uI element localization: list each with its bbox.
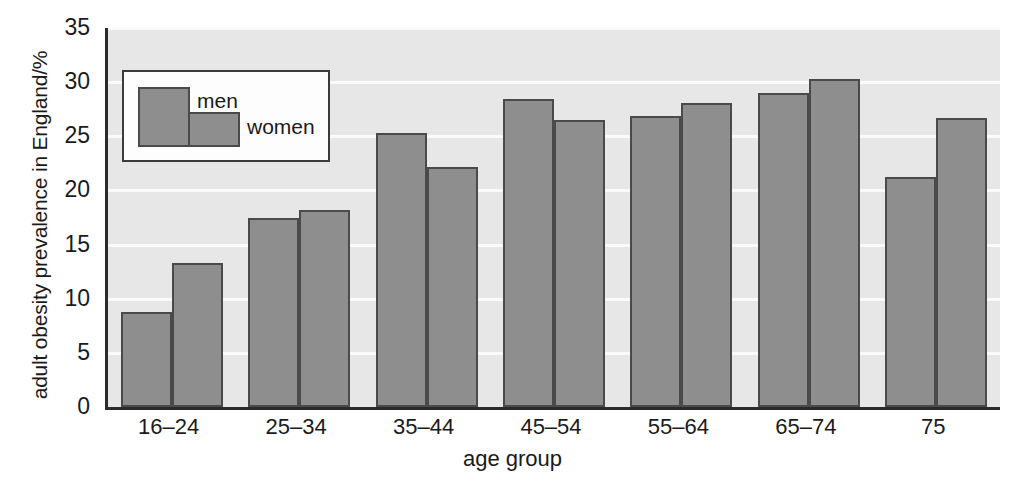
bar-group — [503, 28, 605, 407]
bar-group — [376, 28, 478, 407]
y-axis-tick-label: 10 — [30, 287, 90, 310]
x-axis-tick-label: 65–74 — [742, 414, 869, 440]
x-axis-tick-label: 25–34 — [232, 414, 359, 440]
bar-chart: adult obesity prevalence in England/% 05… — [0, 0, 1025, 482]
y-axis-tick-label: 25 — [30, 124, 90, 147]
y-axis-tick-label: 0 — [30, 395, 90, 418]
y-axis-tick-labels: 05101520253035 — [0, 0, 100, 482]
x-axis-tick-label: 45–54 — [487, 414, 614, 440]
y-axis-tick-label: 5 — [30, 341, 90, 364]
y-axis-tick-label: 20 — [30, 178, 90, 201]
bar-women — [427, 167, 478, 407]
x-axis-title: age group — [0, 446, 1025, 472]
x-axis-tick-label: 35–44 — [360, 414, 487, 440]
bar-men — [503, 99, 554, 407]
bar-women — [554, 120, 605, 407]
legend-label-men: men — [197, 90, 238, 111]
bar-group — [758, 28, 860, 407]
y-axis-tick-label: 15 — [30, 233, 90, 256]
bar-men — [758, 93, 809, 407]
x-axis-tick-label: 55–64 — [615, 414, 742, 440]
bar-women — [681, 103, 732, 407]
bar-women — [936, 118, 987, 407]
bar-group — [630, 28, 732, 407]
x-axis-tick-label: 16–24 — [105, 414, 232, 440]
bar-women — [172, 263, 223, 407]
legend: men women — [122, 70, 330, 162]
legend-label-women: women — [247, 116, 315, 137]
bar-women — [299, 210, 350, 407]
bar-men — [121, 312, 172, 407]
bar-group — [885, 28, 987, 407]
legend-swatch-women — [188, 112, 240, 147]
bar-women — [809, 79, 860, 407]
bar-men — [248, 218, 299, 408]
bar-men — [885, 177, 936, 407]
legend-swatch-men — [138, 87, 190, 147]
bar-men — [376, 133, 427, 407]
y-axis-tick-label: 35 — [30, 16, 90, 39]
x-axis-tick-label: 75 — [870, 414, 997, 440]
y-axis-tick-label: 30 — [30, 70, 90, 93]
bar-men — [630, 116, 681, 407]
